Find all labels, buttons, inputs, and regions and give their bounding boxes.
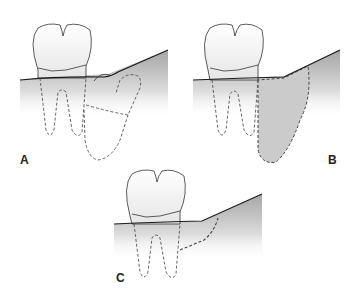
panel-c — [114, 170, 262, 278]
panel-label-b: B — [328, 153, 337, 167]
panel-label-c: C — [116, 271, 125, 285]
panel-b — [193, 24, 340, 163]
crown-b — [204, 24, 263, 80]
panel-label-a: A — [20, 153, 29, 167]
defect-b — [258, 66, 309, 163]
dental-diagram — [0, 0, 353, 295]
panel-a — [20, 24, 168, 160]
